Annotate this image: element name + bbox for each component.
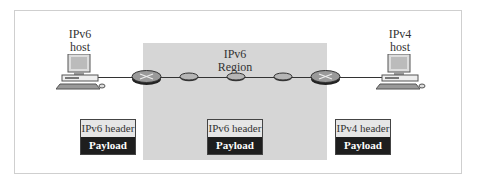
left-host-label-line2: host xyxy=(60,41,100,54)
packet-ipv4-right: IPv4 header Payload xyxy=(335,119,391,155)
packet-header: IPv4 header xyxy=(336,120,390,137)
right-host-label-line2: host xyxy=(380,41,420,54)
edge-router-left-icon xyxy=(131,69,162,86)
packet-header: IPv6 header xyxy=(208,120,262,137)
left-host-label: IPv6 host xyxy=(60,28,100,54)
ipv4-host-computer-icon xyxy=(376,54,426,90)
region-label: IPv6 Region xyxy=(215,48,255,74)
edge-router-right-icon xyxy=(310,69,341,86)
packet-ipv6-left: IPv6 header Payload xyxy=(80,119,136,155)
packet-payload: Payload xyxy=(208,137,262,154)
packet-ipv6-region: IPv6 header Payload xyxy=(207,119,263,155)
ipv6-host-computer-icon xyxy=(56,54,106,90)
packet-payload: Payload xyxy=(81,137,135,154)
right-host-label: IPv4 host xyxy=(380,28,420,54)
inner-router-1-icon xyxy=(179,72,199,82)
inner-router-3-icon xyxy=(273,72,293,82)
packet-header: IPv6 header xyxy=(81,120,135,137)
inner-router-2-icon xyxy=(226,72,246,82)
packet-payload: Payload xyxy=(336,137,390,154)
